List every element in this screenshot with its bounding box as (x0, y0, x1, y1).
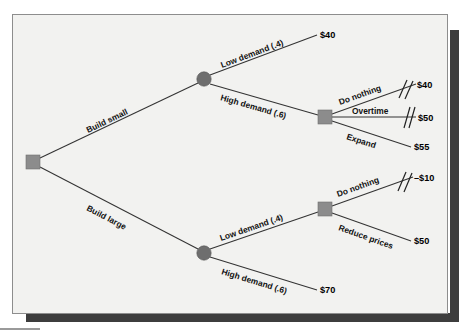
decision-tree-svg: Build small Build large Low demand (.4) … (0, 0, 469, 332)
branch-label-large-do-nothing: Do nothing (335, 175, 380, 199)
node-chance-build-large[interactable] (197, 246, 211, 260)
branch-label-small-overtime: Overtime (352, 106, 389, 116)
branch-label-build-small: Build small (85, 107, 130, 135)
node-chance-build-small[interactable] (197, 72, 211, 86)
branch-line-build-small (40, 83, 198, 158)
payoff-large-low-do-nothing: –$10 (414, 173, 434, 183)
payoff-small-high-overtime: $50 (418, 113, 433, 123)
node-decision-small-high-demand[interactable] (318, 110, 332, 124)
decision-tree-figure: Build small Build large Low demand (.4) … (0, 0, 469, 332)
branch-label-build-large: Build large (85, 203, 128, 232)
payoff-large-high-demand: $70 (320, 285, 335, 295)
branch-line-small-low-demand (210, 35, 317, 75)
payoff-small-low-demand: $40 (320, 30, 335, 40)
payoff-large-low-reduce-prices: $50 (414, 236, 429, 246)
branch-label-large-reduce-prices: Reduce prices (337, 222, 395, 251)
payoff-small-high-do-nothing: $40 (417, 80, 432, 90)
branch-label-small-low-demand: Low demand (.4) (219, 37, 285, 70)
node-decision-large-low-demand[interactable] (318, 202, 332, 216)
payoff-small-high-expand: $55 (414, 142, 429, 152)
branch-line-build-large (40, 167, 198, 249)
node-root-decision[interactable] (26, 155, 40, 169)
branch-label-small-do-nothing: Do nothing (337, 83, 382, 107)
